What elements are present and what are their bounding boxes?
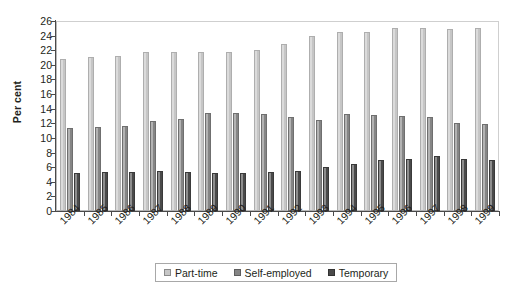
y-tick-mark xyxy=(51,123,55,124)
x-tick-mark xyxy=(388,212,389,216)
bar-gloss xyxy=(262,115,264,210)
bar-part-time xyxy=(226,52,232,211)
y-tick-label: 16 xyxy=(0,89,52,99)
chart-legend: Part-timeSelf-employedTemporary xyxy=(155,263,397,282)
bar-self-employed xyxy=(178,119,184,211)
y-tick-mark xyxy=(51,79,55,80)
bar-part-time xyxy=(143,52,149,211)
y-tick-mark xyxy=(51,182,55,183)
bar-group xyxy=(278,21,306,211)
bar-gloss xyxy=(310,37,312,210)
bar-group xyxy=(305,21,333,211)
bar-self-employed xyxy=(371,115,377,211)
bar-gloss xyxy=(89,58,91,210)
legend-swatch-part-time xyxy=(164,269,171,276)
bar-group xyxy=(471,21,499,211)
bar-gloss xyxy=(400,117,402,210)
legend-item[interactable]: Part-time xyxy=(164,267,218,279)
y-tick-label: 6 xyxy=(0,162,52,172)
y-tick-label: 2 xyxy=(0,191,52,201)
legend-item[interactable]: Self-employed xyxy=(234,267,312,279)
bar-self-employed xyxy=(427,117,433,211)
bar-self-employed xyxy=(482,124,488,211)
bar-gloss xyxy=(372,116,374,210)
bar-self-employed xyxy=(399,116,405,211)
bar-part-time xyxy=(337,32,343,211)
bar-part-time xyxy=(115,56,121,211)
bars-layer xyxy=(56,21,499,211)
bar-gloss xyxy=(483,125,485,210)
bar-gloss xyxy=(61,60,63,210)
bar-part-time xyxy=(392,28,398,211)
bar-gloss xyxy=(345,115,347,210)
legend-label: Temporary xyxy=(339,267,389,279)
y-tick-mark xyxy=(51,94,55,95)
bar-part-time xyxy=(364,32,370,211)
bar-self-employed xyxy=(67,128,73,211)
y-tick-mark xyxy=(51,153,55,154)
bar-group xyxy=(444,21,472,211)
y-tick-mark xyxy=(51,167,55,168)
bar-group xyxy=(167,21,195,211)
bar-self-employed xyxy=(454,123,460,211)
bar-self-employed xyxy=(233,113,239,211)
bar-self-employed xyxy=(205,113,211,211)
bar-group xyxy=(361,21,389,211)
y-tick-mark xyxy=(51,36,55,37)
bar-gloss xyxy=(206,114,208,210)
bar-gloss xyxy=(179,120,181,210)
x-tick-mark xyxy=(305,212,306,216)
x-tick-mark xyxy=(278,212,279,216)
x-tick-mark xyxy=(84,212,85,216)
bar-part-time xyxy=(475,28,481,211)
bar-gloss xyxy=(199,53,201,210)
bar-gloss xyxy=(151,122,153,210)
bar-part-time xyxy=(420,28,426,211)
x-tick-mark xyxy=(167,212,168,216)
bar-group xyxy=(56,21,84,211)
x-tick-mark xyxy=(111,212,112,216)
bar-gloss xyxy=(234,114,236,210)
bar-self-employed xyxy=(288,117,294,211)
bar-gloss xyxy=(144,53,146,210)
x-tick-mark xyxy=(416,212,417,216)
y-tick-label: 22 xyxy=(0,45,52,55)
y-tick-mark xyxy=(51,211,55,212)
bar-self-employed xyxy=(95,127,101,211)
legend-swatch-temporary xyxy=(328,269,335,276)
bar-gloss xyxy=(421,29,423,210)
x-tick-mark xyxy=(444,212,445,216)
x-tick-mark xyxy=(250,212,251,216)
y-tick-mark xyxy=(51,196,55,197)
bar-part-time xyxy=(309,36,315,211)
bar-gloss xyxy=(255,51,257,211)
bar-gloss xyxy=(448,30,450,210)
legend-item[interactable]: Temporary xyxy=(328,267,389,279)
legend-label: Self-employed xyxy=(245,267,312,279)
x-tick-mark xyxy=(499,212,500,216)
bar-gloss xyxy=(476,29,478,210)
bar-gloss xyxy=(227,53,229,210)
bar-group xyxy=(388,21,416,211)
bar-group xyxy=(333,21,361,211)
bar-gloss xyxy=(68,129,70,210)
bar-group xyxy=(250,21,278,211)
y-tick-label: 10 xyxy=(0,133,52,143)
x-tick-mark xyxy=(222,212,223,216)
bar-gloss xyxy=(455,124,457,210)
bar-group xyxy=(139,21,167,211)
x-tick-mark xyxy=(333,212,334,216)
y-tick-label: 14 xyxy=(0,104,52,114)
x-tick-mark xyxy=(471,212,472,216)
bar-gloss xyxy=(428,118,430,210)
bar-gloss xyxy=(96,128,98,210)
bar-group xyxy=(416,21,444,211)
bar-gloss xyxy=(365,33,367,210)
bar-group xyxy=(84,21,112,211)
y-tick-label: 24 xyxy=(0,31,52,41)
x-tick-mark xyxy=(194,212,195,216)
bar-part-time xyxy=(171,52,177,211)
bar-gloss xyxy=(116,57,118,210)
y-tick-mark xyxy=(51,50,55,51)
legend-swatch-self-employed xyxy=(234,269,241,276)
